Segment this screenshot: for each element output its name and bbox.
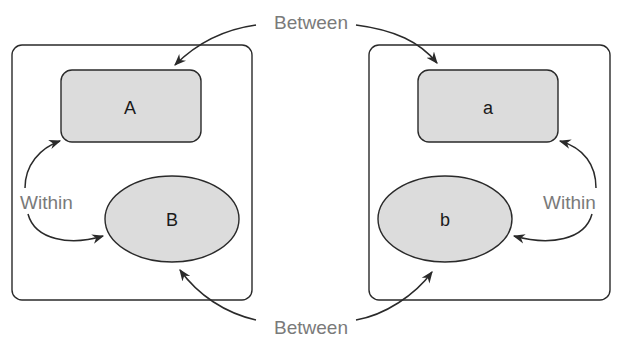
within-label-right: Within [543,192,596,213]
rect-a-label: a [483,98,494,118]
right-panel: a b Within [369,45,610,300]
within-label-left: Within [20,192,73,213]
ellipse-B-label: B [166,210,178,230]
left-panel: A B Within [12,45,252,300]
between-label-top: Between [274,12,348,33]
ellipse-b-label: b [440,210,450,230]
diagram-canvas: A B Within a b Within Between Between [0,0,623,361]
between-label-bottom: Between [274,317,348,338]
rect-A-label: A [124,98,136,118]
